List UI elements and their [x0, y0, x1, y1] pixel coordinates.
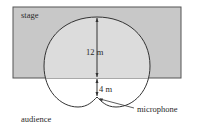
audience-label: audience	[21, 114, 51, 124]
upper-distance-label: 12 m	[86, 47, 104, 57]
microphone-pickup-diagram: stage 12 m 4 m microphone audience	[0, 0, 201, 128]
lower-distance-label: 4 m	[99, 84, 112, 94]
arrowhead-up-icon	[96, 79, 99, 83]
stage-label: stage	[21, 10, 39, 20]
microphone-label: microphone	[137, 104, 178, 114]
